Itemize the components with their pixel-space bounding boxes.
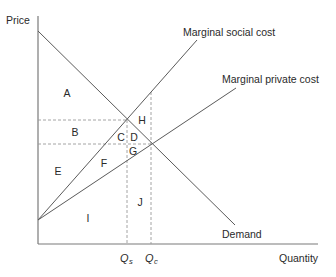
area-c-label: C: [117, 131, 125, 143]
area-e-label: E: [54, 165, 61, 177]
externality-diagram: Price Quantity Marginal social cost Marg…: [0, 0, 336, 277]
x-axis-label: Quantity: [279, 252, 319, 264]
y-axis-label: Price: [6, 14, 30, 26]
qs-tick-subscript: s: [129, 257, 133, 266]
area-j-label: J: [137, 196, 142, 208]
area-d-label: D: [130, 131, 138, 143]
area-a-label: A: [63, 87, 70, 99]
area-i-label: I: [87, 212, 90, 224]
area-h-label: H: [138, 114, 146, 126]
qc-tick-label: Q: [145, 252, 154, 264]
qc-tick-subscript: c: [154, 257, 158, 266]
area-f-label: F: [101, 157, 107, 169]
area-b-label: B: [71, 126, 78, 138]
mpc-label: Marginal private cost: [222, 73, 319, 85]
demand-label: Demand: [222, 228, 262, 240]
area-g-label: G: [129, 145, 137, 157]
qs-tick-label: Q: [120, 252, 129, 264]
msc-label: Marginal social cost: [183, 26, 275, 38]
